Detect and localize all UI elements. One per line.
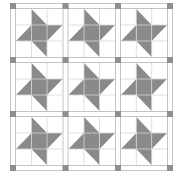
star-point-top <box>136 9 151 25</box>
star-block <box>121 9 167 57</box>
star-block <box>69 117 116 165</box>
star-point-right <box>152 25 167 41</box>
star-point-bottom <box>136 149 151 165</box>
star-point-bottom <box>32 95 48 111</box>
star-point-left <box>69 79 85 95</box>
star-center <box>84 25 100 41</box>
star-center <box>32 133 48 149</box>
star-point-left <box>16 25 32 41</box>
star-point-bottom <box>136 41 151 57</box>
star-point-right <box>47 79 63 95</box>
star-center <box>84 133 100 149</box>
cornerstone <box>63 111 69 117</box>
star-block <box>69 63 116 111</box>
star-center <box>136 133 151 149</box>
cornerstone <box>115 165 121 171</box>
star-center <box>136 79 151 95</box>
cornerstone <box>115 57 121 63</box>
cornerstone <box>10 165 16 171</box>
star-point-bottom <box>84 95 100 111</box>
star-point-top <box>136 63 151 79</box>
cornerstone <box>10 57 16 63</box>
cornerstone <box>115 111 121 117</box>
star-point-left <box>69 133 85 149</box>
star-point-bottom <box>32 149 48 165</box>
star-point-left <box>121 79 136 95</box>
star-point-right <box>100 133 116 149</box>
cornerstone <box>10 111 16 117</box>
star-point-right <box>100 79 116 95</box>
star-point-bottom <box>32 41 48 57</box>
star-point-top <box>84 63 100 79</box>
star-point-right <box>152 133 167 149</box>
star-point-top <box>84 117 100 133</box>
star-point-top <box>136 117 151 133</box>
cornerstone <box>167 111 173 117</box>
cornerstone <box>167 57 173 63</box>
star-center <box>32 25 48 41</box>
star-point-top <box>32 63 48 79</box>
star-center <box>136 25 151 41</box>
cornerstone <box>63 57 69 63</box>
star-point-left <box>121 133 136 149</box>
star-block <box>16 9 63 57</box>
star-point-top <box>32 9 48 25</box>
star-block <box>69 9 116 57</box>
star-point-bottom <box>84 149 100 165</box>
star-center <box>32 79 48 95</box>
star-center <box>84 79 100 95</box>
star-point-right <box>152 79 167 95</box>
star-point-bottom <box>84 41 100 57</box>
star-point-top <box>32 117 48 133</box>
star-point-left <box>121 25 136 41</box>
cornerstone <box>167 165 173 171</box>
star-point-top <box>84 9 100 25</box>
star-point-right <box>100 25 116 41</box>
star-block <box>121 63 167 111</box>
star-point-right <box>47 25 63 41</box>
quilt-canvas <box>0 0 176 177</box>
cornerstone <box>63 165 69 171</box>
star-block <box>16 117 63 165</box>
star-point-left <box>16 79 32 95</box>
star-block <box>16 63 63 111</box>
cornerstone <box>10 3 16 9</box>
star-point-left <box>16 133 32 149</box>
star-point-left <box>69 25 85 41</box>
star-block <box>121 117 167 165</box>
cornerstone <box>167 3 173 9</box>
cornerstone <box>115 3 121 9</box>
cornerstone <box>63 3 69 9</box>
star-point-right <box>47 133 63 149</box>
star-point-bottom <box>136 95 151 111</box>
